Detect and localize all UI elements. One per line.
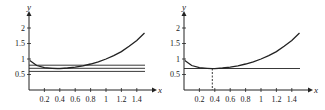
y-tick-label: 1.5 [170, 39, 180, 48]
x-tick-labels: 0.2 0.4 0.6 0.8 1 1.2 1.4 [194, 95, 296, 104]
x-tick-labels: 0.2 0.4 0.6 0.8 1 1.2 1.4 [39, 95, 141, 104]
x-tick-label: 0.2 [39, 95, 49, 104]
y-axis-label: y [26, 2, 31, 12]
chart-right-svg: x y 0.2 0.4 0.6 0.8 1 1.2 1.4 0.5 [164, 0, 325, 110]
x-tick-label: 1.4 [132, 95, 142, 104]
y-tick-label: 2 [176, 24, 180, 33]
x-tick-label: 0.4 [210, 95, 220, 104]
x-tick-label: 0.2 [194, 95, 204, 104]
x-tick-label: 1 [104, 95, 108, 104]
x-tick-label: 0.4 [55, 95, 65, 104]
curve-x-to-the-x [185, 33, 300, 69]
x-tick-label: 1.4 [287, 95, 297, 104]
x-tick-label: 1.2 [116, 95, 126, 104]
x-axis-label: x [313, 85, 318, 95]
x-tick-label: 1.2 [271, 95, 281, 104]
curve-x-to-the-x [30, 33, 145, 69]
y-tick-label: 0.5 [170, 70, 180, 79]
y-tick-label: 1.5 [15, 39, 25, 48]
chart-right-panel: x y 0.2 0.4 0.6 0.8 1 1.2 1.4 0.5 [164, 0, 325, 110]
y-tick-label: 0.5 [15, 70, 25, 79]
chart-left-svg: x y 0.2 0.4 0.6 0.8 1 1.2 1.4 [0, 0, 162, 110]
y-tick-label: 1 [21, 55, 25, 64]
x-axis-arrow-icon [152, 88, 157, 93]
x-tick-label: 0.6 [70, 95, 80, 104]
y-tick-label: 2 [21, 24, 25, 33]
x-tick-label: 0.8 [241, 95, 251, 104]
x-tick-label: 0.8 [86, 95, 96, 104]
chart-left-panel: x y 0.2 0.4 0.6 0.8 1 1.2 1.4 [0, 0, 162, 110]
x-tick-label: 0.6 [225, 95, 235, 104]
x-axis-label: x [157, 85, 162, 95]
y-tick-labels: 0.5 1 1.5 2 [15, 24, 25, 80]
x-axis-arrow-icon [308, 88, 313, 93]
x-tick-label: 1 [259, 95, 263, 104]
y-axis-label: y [181, 2, 186, 12]
y-tick-labels: 0.5 1 1.5 2 [170, 24, 180, 80]
y-tick-label: 1 [176, 55, 180, 64]
